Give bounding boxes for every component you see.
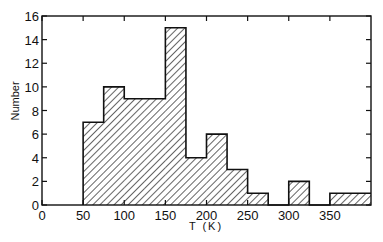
y-axis-label: Number: [9, 81, 21, 120]
x-tick-label: 300: [278, 208, 300, 223]
histogram-bar: [289, 181, 310, 205]
y-tick-label: 8: [32, 104, 39, 119]
histogram-bar: [145, 99, 166, 205]
y-tick-label: 16: [25, 9, 39, 24]
y-tick-label: 4: [32, 151, 39, 166]
y-tick-label: 10: [25, 80, 39, 95]
histogram-bar: [124, 99, 145, 205]
x-tick-label: 250: [237, 208, 259, 223]
x-tick-label: 0: [38, 208, 45, 223]
histogram-bar: [330, 193, 351, 205]
y-tick-label: 6: [32, 127, 39, 142]
histogram-bar: [104, 87, 125, 205]
histogram-bar: [207, 134, 228, 205]
x-tick-label: 50: [76, 208, 90, 223]
histogram-bar: [350, 193, 371, 205]
y-tick-label: 2: [32, 174, 39, 189]
x-tick-label: 350: [319, 208, 341, 223]
y-tick-label: 12: [25, 56, 39, 71]
x-tick-label: 100: [113, 208, 135, 223]
y-tick-label: 14: [25, 33, 39, 48]
histogram-chart: 0246810121416 050100150200250300350 T (K…: [0, 0, 383, 242]
histogram-bar: [248, 193, 269, 205]
histogram-bar: [165, 28, 186, 205]
x-axis-label: T (K): [189, 220, 223, 232]
histogram-bars: [83, 28, 371, 205]
histogram-bar: [83, 122, 104, 205]
histogram-bar: [186, 158, 207, 205]
x-tick-label: 150: [155, 208, 177, 223]
histogram-bar: [227, 170, 248, 205]
